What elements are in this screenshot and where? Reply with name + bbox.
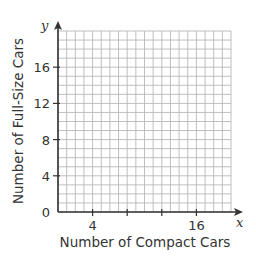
y-axis-title: Number of Full-Size Cars xyxy=(10,38,26,204)
axes xyxy=(54,21,243,216)
y-tick-label: 16 xyxy=(33,60,50,75)
grid-lines xyxy=(58,31,231,212)
y-tick-label: 4 xyxy=(42,169,50,184)
coordinate-grid-chart: 4160481216 x y Number of Compact Cars Nu… xyxy=(0,0,256,263)
y-tick-label: 0 xyxy=(42,205,50,220)
y-axis-variable: y xyxy=(40,18,49,33)
y-tick-label: 8 xyxy=(42,133,50,148)
x-tick-label: 4 xyxy=(88,218,96,233)
x-axis-variable: x xyxy=(236,215,244,230)
y-tick-label: 12 xyxy=(33,96,50,111)
x-tick-label: 16 xyxy=(188,218,205,233)
x-axis-title: Number of Compact Cars xyxy=(60,234,231,250)
